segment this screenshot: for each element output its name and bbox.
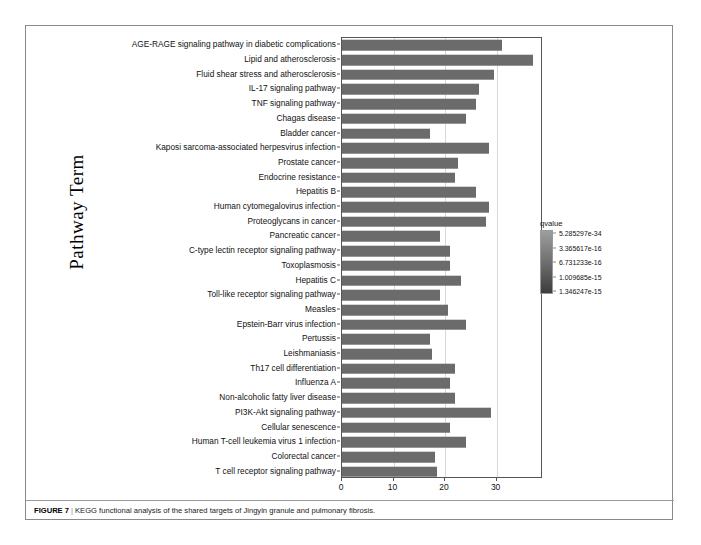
y-axis-title: Pathway Term (66, 137, 88, 287)
figure-caption: FIGURE 7|KEGG functional analysis of the… (34, 506, 664, 516)
category-tick (337, 470, 340, 471)
category-tick (337, 147, 340, 148)
x-axis-tick (393, 478, 394, 481)
legend-entry-label: 1.346247e-15 (559, 288, 602, 295)
category-label: Epstein-Barr virus infection (237, 319, 336, 328)
bar (342, 187, 476, 198)
category-label: Lipid and atherosclerosis (244, 55, 336, 64)
x-axis-tick (496, 478, 497, 481)
category-label: Hepatitis C (295, 275, 336, 284)
category-tick (337, 279, 340, 280)
bar (342, 99, 476, 110)
category-tick (337, 73, 340, 74)
category-tick (337, 44, 340, 45)
category-tick (337, 161, 340, 162)
legend-tick (553, 291, 556, 292)
category-tick (337, 397, 340, 398)
category-tick (337, 103, 340, 104)
category-tick (337, 220, 340, 221)
category-label: Colorectal cancer (271, 451, 336, 460)
category-tick (337, 367, 340, 368)
category-tick (337, 294, 340, 295)
category-label: Cellular senescence (261, 422, 336, 431)
category-tick (337, 455, 340, 456)
category-tick (337, 353, 340, 354)
x-axis-tick-label: 20 (439, 482, 448, 492)
bar (342, 466, 437, 477)
bar (342, 172, 455, 183)
category-label: Influenza A (295, 378, 336, 387)
category-tick (337, 411, 340, 412)
bar (342, 246, 450, 257)
category-tick (337, 191, 340, 192)
category-label: Hepatitis B (296, 187, 336, 196)
category-label: C-type lectin receptor signaling pathway (189, 246, 336, 255)
bar (342, 319, 466, 330)
category-tick (337, 308, 340, 309)
legend-tick (553, 247, 556, 248)
category-label: PI3K-Akt signaling pathway (235, 407, 336, 416)
legend-tick (553, 233, 556, 234)
bar (342, 452, 435, 463)
legend-entry-label: 6.731233e-16 (559, 259, 602, 266)
legend-title: qvalue (540, 219, 657, 228)
caption-label: FIGURE 7 (34, 506, 69, 515)
category-axis-labels: AGE-RAGE signaling pathway in diabetic c… (96, 37, 336, 478)
bar (342, 422, 450, 433)
bar (342, 349, 432, 360)
bar (342, 261, 450, 272)
legend-tick (553, 276, 556, 277)
category-label: IL-17 signaling pathway (249, 84, 336, 93)
caption-divider (26, 500, 674, 501)
x-axis: 0102030 (341, 478, 542, 496)
bar (342, 55, 533, 66)
category-tick (337, 250, 340, 251)
category-label: Chagas disease (276, 113, 336, 122)
category-tick (337, 59, 340, 60)
bar (342, 437, 466, 448)
figure-frame: Pathway Term AGE-RAGE signaling pathway … (25, 25, 673, 520)
bar (342, 143, 489, 154)
bar (342, 334, 430, 345)
category-label: T cell receptor signaling pathway (215, 466, 336, 475)
category-tick (337, 264, 340, 265)
category-label: Toxoplasmosis (282, 260, 336, 269)
bar (342, 158, 458, 169)
gridline (497, 38, 498, 477)
bar (342, 408, 491, 419)
category-label: Kaposi sarcoma-associated herpesvirus in… (156, 143, 336, 152)
category-label: Pertussis (302, 334, 336, 343)
bar (342, 231, 440, 242)
legend-entry-label: 1.009685e-15 (559, 273, 602, 280)
x-axis-tick-label: 30 (491, 482, 500, 492)
x-axis-tick (341, 478, 342, 481)
category-tick (337, 88, 340, 89)
category-tick (337, 382, 340, 383)
category-tick (337, 235, 340, 236)
bar (342, 216, 486, 227)
x-axis-tick-label: 10 (388, 482, 397, 492)
caption-text: KEGG functional analysis of the shared t… (75, 506, 375, 515)
bar (342, 290, 440, 301)
legend-entry-label: 5.285297e-34 (559, 230, 602, 237)
category-tick (337, 323, 340, 324)
category-label: Toll-like receptor signaling pathway (207, 290, 336, 299)
category-tick (337, 206, 340, 207)
bar (342, 393, 455, 404)
legend-body: 5.285297e-343.365617e-166.731233e-161.00… (537, 230, 657, 296)
category-tick (337, 117, 340, 118)
category-label: Pancreatic cancer (270, 231, 336, 240)
bar (342, 305, 448, 316)
category-tick (337, 441, 340, 442)
bar (342, 69, 494, 80)
bar (342, 128, 430, 139)
category-label: Bladder cancer (280, 128, 336, 137)
bar (342, 40, 502, 51)
category-label: Measles (305, 304, 336, 313)
x-axis-tick (444, 478, 445, 481)
legend-color-gradient (540, 230, 553, 294)
bar (342, 275, 461, 286)
category-label: Prostate cancer (278, 157, 336, 166)
plot-panel (341, 37, 542, 478)
legend-entry-label: 3.365617e-16 (559, 244, 602, 251)
